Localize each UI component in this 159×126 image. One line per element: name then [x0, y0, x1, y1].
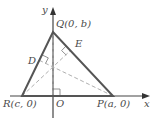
right-angle-E — [62, 46, 67, 55]
point-P-label: P(a, 0) — [96, 98, 130, 109]
orthocenter-diagram: y x O Q(0, b) E D R(c, 0) P(a, 0) — [0, 0, 159, 126]
y-axis-label: y — [41, 4, 48, 15]
y-axis-arrow-icon — [50, 7, 56, 15]
x-axis-label: x — [144, 98, 150, 109]
point-D-label: D — [27, 55, 36, 66]
right-angle-D — [42, 55, 48, 63]
point-Q-label: Q(0, b) — [56, 18, 91, 29]
point-R-label: R(c, 0) — [2, 98, 37, 109]
origin-label: O — [56, 98, 64, 109]
right-angle-O — [53, 89, 60, 96]
altitude-PD — [39, 60, 113, 96]
point-E-label: E — [74, 38, 83, 49]
right-angle-markers — [42, 46, 66, 96]
